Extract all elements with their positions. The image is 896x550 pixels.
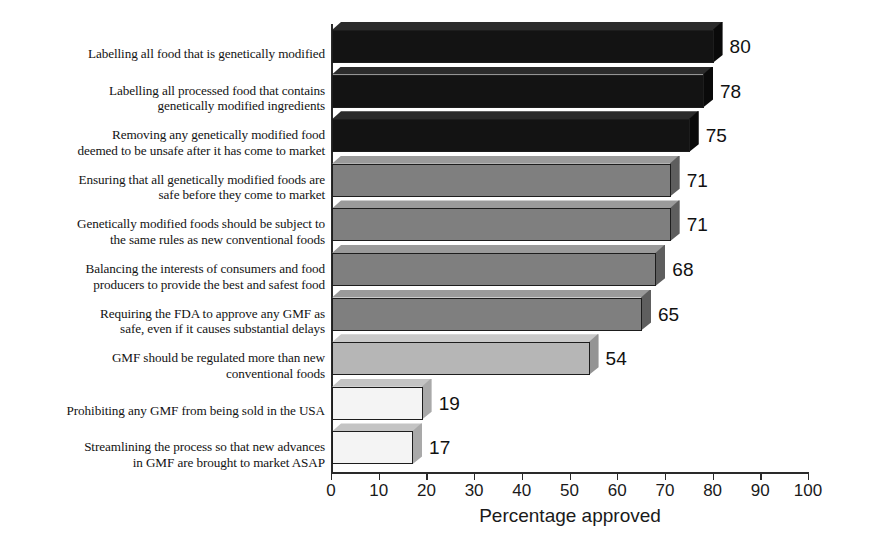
category-label-line: GMF should be regulated more than new — [0, 350, 325, 366]
category-label-line: genetically modified ingredients — [0, 98, 325, 114]
bar — [332, 245, 665, 286]
bar — [332, 423, 422, 464]
x-axis-tick — [617, 473, 618, 480]
category-label: Requiring the FDA to approve any GMF ass… — [0, 306, 325, 337]
category-label: Prohibiting any GMF from being sold in t… — [0, 403, 325, 419]
category-label-list: Labelling all food that is genetically m… — [0, 0, 325, 473]
x-axis-tick — [760, 473, 761, 480]
category-label-line: producers to provide the best and safest… — [0, 277, 325, 293]
bar-front-face — [332, 30, 714, 63]
bar — [332, 200, 680, 241]
bar-front-face — [332, 164, 671, 197]
category-label: Labelling all food that is genetically m… — [0, 46, 325, 62]
category-label-line: Streamlining the process so that new adv… — [0, 439, 325, 455]
category-label-line: the same rules as new conventional foods — [0, 232, 325, 248]
x-axis-tick — [474, 473, 475, 480]
x-axis-tick — [522, 473, 523, 480]
category-label: Balancing the interests of consumers and… — [0, 261, 325, 292]
bar-top-face — [332, 379, 432, 387]
bar-value-label: 19 — [439, 393, 460, 415]
x-axis-tick — [665, 473, 666, 480]
category-label-line: Prohibiting any GMF from being sold in t… — [0, 403, 325, 419]
x-axis-tick — [570, 473, 571, 480]
bar — [332, 290, 651, 331]
category-label-line: Ensuring that all genetically modified f… — [0, 172, 325, 188]
bar-value-label: 78 — [720, 81, 741, 103]
bar-top-face — [332, 423, 422, 431]
bar-value-label: 71 — [687, 214, 708, 236]
plot-area: 80787571716865541917 0102030405060708090… — [331, 0, 891, 473]
x-axis-tick-label: 70 — [655, 481, 674, 501]
category-label: Streamlining the process so that new adv… — [0, 439, 325, 470]
bar-top-face — [332, 290, 651, 298]
x-axis-tick — [331, 473, 332, 480]
category-label: GMF should be regulated more than newcon… — [0, 350, 325, 381]
bar-front-face — [332, 387, 423, 420]
bar — [332, 67, 713, 108]
bar-value-label: 71 — [687, 170, 708, 192]
x-axis-tick-label: 20 — [417, 481, 436, 501]
bar-value-label: 65 — [658, 304, 679, 326]
x-axis-tick-label: 0 — [326, 481, 335, 501]
category-label-line: Labelling all food that is genetically m… — [0, 46, 325, 62]
category-label: Removing any genetically modified foodde… — [0, 127, 325, 158]
bar-top-face — [332, 22, 723, 30]
bar-value-label: 54 — [606, 348, 627, 370]
category-label-line: deemed to be unsafe after it has come to… — [0, 143, 325, 159]
x-axis-tick-label: 80 — [703, 481, 722, 501]
bar-top-face — [332, 67, 713, 75]
bar — [332, 111, 699, 152]
x-axis-tick — [379, 473, 380, 480]
bar-front-face — [332, 208, 671, 241]
category-label-line: Genetically modified foods should be sub… — [0, 216, 325, 232]
bar-value-label: 75 — [706, 125, 727, 147]
bar-top-face — [332, 245, 665, 253]
category-label: Ensuring that all genetically modified f… — [0, 172, 325, 203]
bar-top-face — [332, 200, 680, 208]
bar-front-face — [332, 253, 656, 286]
bar — [332, 22, 723, 63]
category-label-line: in GMF are brought to market ASAP — [0, 455, 325, 471]
category-label-line: Requiring the FDA to approve any GMF as — [0, 306, 325, 322]
x-axis-tick-label: 30 — [465, 481, 484, 501]
category-label: Labelling all processed food that contai… — [0, 83, 325, 114]
x-axis-tick — [426, 473, 427, 480]
bar — [332, 379, 432, 420]
category-label-line: safe, even if it causes substantial dela… — [0, 321, 325, 337]
bar-front-face — [332, 431, 413, 464]
category-label: Genetically modified foods should be sub… — [0, 216, 325, 247]
bar-front-face — [332, 298, 642, 331]
bar — [332, 156, 680, 197]
bar-front-face — [332, 342, 590, 375]
bar-top-face — [332, 334, 599, 342]
x-axis-tick-label: 50 — [560, 481, 579, 501]
category-label-line: Labelling all processed food that contai… — [0, 83, 325, 99]
x-axis-tick-label: 40 — [512, 481, 531, 501]
x-axis-tick-label: 100 — [794, 481, 822, 501]
bar-value-label: 80 — [730, 36, 751, 58]
bar — [332, 334, 599, 375]
bar-value-label: 68 — [672, 259, 693, 281]
bar-chart: Labelling all food that is genetically m… — [0, 0, 896, 550]
category-label-line: Removing any genetically modified food — [0, 127, 325, 143]
x-axis-tick — [808, 473, 809, 480]
bar-top-face — [332, 111, 699, 119]
x-axis-tick-label: 90 — [751, 481, 770, 501]
x-axis-label: Percentage approved — [331, 505, 809, 527]
bar-front-face — [332, 75, 704, 108]
category-label-line: Balancing the interests of consumers and… — [0, 261, 325, 277]
bar-front-face — [332, 119, 690, 152]
x-axis-tick — [713, 473, 714, 480]
x-axis-tick-label: 10 — [369, 481, 388, 501]
category-label-line: safe before they come to market — [0, 187, 325, 203]
bar-top-face — [332, 156, 680, 164]
bar-value-label: 17 — [429, 437, 450, 459]
category-label-line: conventional foods — [0, 366, 325, 382]
x-axis-tick-label: 60 — [608, 481, 627, 501]
